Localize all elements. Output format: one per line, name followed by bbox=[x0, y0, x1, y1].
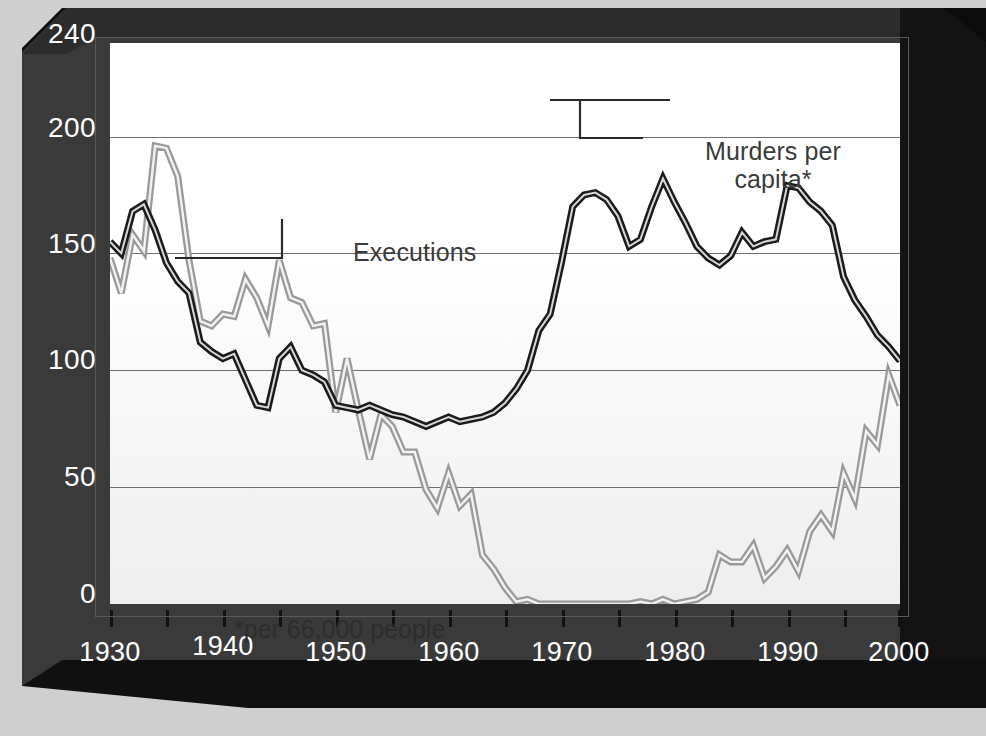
chart-canvas bbox=[110, 43, 900, 604]
x-axis-tickmark bbox=[562, 610, 565, 627]
murders-annotation-label: Murders per capita* bbox=[688, 138, 858, 193]
x-axis-tickmark bbox=[223, 610, 226, 627]
chart-footnote: *per 66,000 people bbox=[234, 615, 445, 644]
x-axis-tickmark bbox=[449, 610, 452, 627]
plot-area: Executions Murders per capita* *per 66,0… bbox=[110, 43, 900, 604]
murders-leader-line-elbow bbox=[580, 100, 643, 138]
x-axis-tick-2000: 2000 bbox=[844, 637, 954, 668]
y-axis-tick-0: 0 bbox=[22, 578, 96, 610]
x-axis-tickmark bbox=[844, 610, 847, 627]
x-axis-tickmark bbox=[675, 610, 678, 627]
chart-figure: 240 200 150 100 50 0 1930 1940 1950 1960… bbox=[0, 0, 986, 736]
frame-bottom-face bbox=[22, 660, 986, 736]
series-line-murders bbox=[110, 179, 900, 427]
murders-annotation-line1: Murders per bbox=[705, 137, 841, 165]
x-axis-tickmark bbox=[731, 610, 734, 627]
x-axis-tick-1970: 1970 bbox=[507, 637, 617, 668]
x-axis-tickmark bbox=[110, 610, 113, 627]
y-axis-tick-200: 200 bbox=[22, 112, 96, 144]
x-axis-tick-1930: 1930 bbox=[55, 637, 165, 668]
x-axis-tickmark bbox=[788, 610, 791, 627]
murders-annotation-line2: capita* bbox=[734, 165, 811, 193]
x-axis-tickmark bbox=[505, 610, 508, 627]
x-axis-tick-1990: 1990 bbox=[733, 637, 843, 668]
frame-right-face bbox=[900, 8, 986, 708]
y-axis-tick-50: 50 bbox=[22, 461, 96, 493]
annotation-leader-lines bbox=[175, 100, 670, 258]
y-axis-tick-100: 100 bbox=[22, 344, 96, 376]
executions-annotation-label: Executions bbox=[353, 239, 476, 267]
y-axis-tick-150: 150 bbox=[22, 228, 96, 260]
x-axis-tick-1980: 1980 bbox=[620, 637, 730, 668]
x-axis-tickmark bbox=[166, 610, 169, 627]
data-series-layer bbox=[110, 146, 900, 604]
y-axis-tick-240: 240 bbox=[22, 18, 96, 50]
x-axis-tickmark bbox=[898, 610, 901, 627]
x-axis-tickmark bbox=[618, 610, 621, 627]
